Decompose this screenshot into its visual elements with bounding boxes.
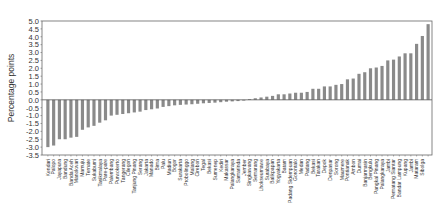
bar (403, 53, 406, 100)
bar (427, 24, 430, 100)
plot-frame (42, 21, 432, 155)
bar (380, 66, 383, 100)
bar (58, 100, 61, 139)
bar (346, 79, 349, 99)
bar (213, 100, 216, 103)
bar (277, 94, 280, 100)
bar (167, 100, 170, 106)
bar (52, 100, 55, 146)
bar (173, 100, 176, 106)
bar (306, 92, 309, 100)
bar (81, 100, 84, 130)
bar (334, 85, 337, 100)
bar (121, 100, 124, 114)
bar (133, 100, 136, 113)
bar (363, 72, 366, 100)
bar (185, 100, 188, 105)
bar (357, 74, 360, 100)
bar (392, 60, 395, 100)
bar (421, 36, 424, 100)
bar (202, 100, 205, 103)
bar (375, 68, 378, 100)
x-tick-label: Sibolga (419, 159, 425, 176)
bar (127, 100, 130, 113)
bar (64, 100, 67, 139)
x-axis-labels: KendariPalopoJayapuraBandungBanda AcehMa… (45, 155, 428, 203)
bar (340, 84, 343, 100)
bar (196, 100, 199, 104)
y-axis-ticks: 5.04.54.03.53.02.52.01.51.00.50.0-0.5-1.… (26, 17, 42, 160)
bar (283, 94, 286, 100)
bar (300, 93, 303, 100)
bar (323, 86, 326, 99)
bar (208, 100, 211, 103)
bar (329, 86, 332, 99)
bar (75, 100, 78, 137)
bar (271, 96, 274, 100)
bar (46, 100, 49, 147)
bar (369, 68, 372, 100)
bar (352, 79, 355, 100)
y-axis-label: Percentage points (6, 54, 16, 123)
bar (288, 94, 291, 100)
bar (115, 100, 118, 115)
bar (156, 100, 159, 109)
bar (265, 97, 268, 100)
bar (179, 100, 182, 105)
bar (87, 100, 90, 128)
bar-series (46, 24, 429, 147)
bar (98, 100, 101, 123)
bar (138, 100, 141, 112)
bar (398, 56, 401, 99)
bar (409, 53, 412, 100)
bar (144, 100, 147, 110)
bar (294, 93, 297, 100)
bar (317, 89, 320, 100)
y-tick-label: -3.5 (26, 151, 39, 160)
bar (150, 100, 153, 109)
bar-chart: Percentage points 5.04.54.03.53.02.52.01… (0, 0, 442, 205)
bar (104, 100, 107, 120)
bar (386, 60, 389, 99)
bar (92, 100, 95, 126)
chart-canvas: Percentage points 5.04.54.03.53.02.52.01… (0, 0, 442, 205)
bar (415, 44, 418, 100)
bar (311, 89, 314, 100)
bar (110, 100, 113, 116)
bar (69, 100, 72, 138)
bar (162, 100, 165, 107)
bar (190, 100, 193, 104)
